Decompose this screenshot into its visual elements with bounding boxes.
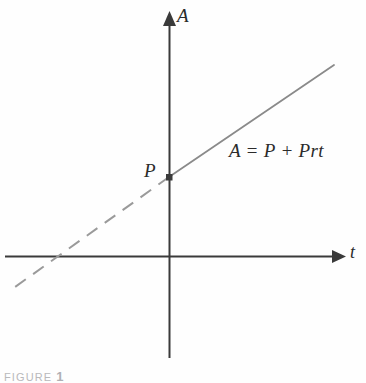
a-axis-label: A (177, 6, 189, 25)
coordinate-plane-graphic (0, 0, 366, 383)
figure-caption-prefix: FIGURE (4, 371, 52, 383)
t-axis-label: t (350, 243, 355, 261)
figure-caption: FIGURE 1 (4, 369, 65, 383)
figure-caption-number: 1 (56, 369, 64, 383)
intercept-label-p: P (144, 161, 156, 180)
a-axis-arrowhead (163, 11, 176, 26)
equation-label: A = P + Prt (229, 141, 324, 160)
t-axis-arrowhead (332, 250, 346, 263)
figure-container: A t P A = P + Prt FIGURE 1 (0, 0, 366, 383)
line-dashed-extension (8, 177, 169, 292)
intercept-point-marker (166, 174, 173, 181)
